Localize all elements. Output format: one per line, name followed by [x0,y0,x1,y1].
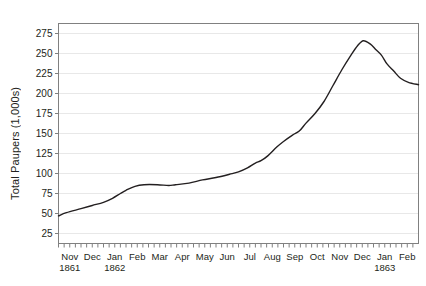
y-tick-label: 175 [36,108,53,119]
x-axis-year-label: 1863 [374,262,395,273]
x-axis-month-label: Feb [129,251,145,262]
data-series-line [59,41,419,216]
y-tick-label: 200 [36,88,53,99]
y-tick-label: 125 [36,148,53,159]
x-axis-month-label: Dec [84,251,101,262]
y-tick-label: 250 [36,48,53,59]
line-chart-svg: 255075100125150175200225250275Nov1861Dec… [0,0,426,286]
y-tick-label: 100 [36,168,53,179]
plot-area-wrapper: 255075100125150175200225250275Nov1861Dec… [0,0,426,286]
x-axis-month-label: Nov [61,251,78,262]
y-tick-label: 150 [36,128,53,139]
x-axis-month-label: Jul [244,251,256,262]
x-axis-year-label: 1862 [104,262,125,273]
x-axis-month-label: Feb [399,251,415,262]
x-axis-year-label: 1861 [59,262,80,273]
x-axis-month-label: Sep [286,251,303,262]
chart-container: Total Paupers (1,000s) 25507510012515017… [0,0,426,286]
x-axis-month-label: May [196,251,214,262]
x-axis-month-label: Oct [310,251,325,262]
x-axis-month-label: Jan [377,251,392,262]
x-axis-month-label: Nov [331,251,348,262]
x-axis-month-label: Jan [107,251,122,262]
x-axis-month-label: Apr [175,251,190,262]
y-tick-label: 275 [36,28,53,39]
x-axis-month-label: Mar [152,251,168,262]
y-tick-label: 50 [41,208,53,219]
y-tick-label: 25 [41,228,53,239]
x-axis-month-label: Jun [220,251,235,262]
x-axis-month-label: Aug [264,251,281,262]
x-axis-month-label: Dec [354,251,371,262]
y-tick-label: 75 [41,188,53,199]
y-tick-label: 225 [36,68,53,79]
